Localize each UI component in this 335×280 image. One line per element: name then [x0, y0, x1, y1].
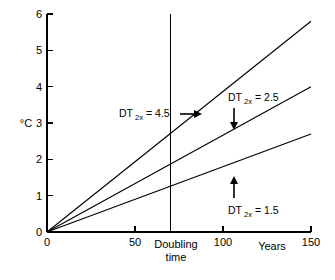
- annotation-dt2x-45: DT 2x = 4.5: [119, 107, 202, 122]
- y-tick-label-4: 4: [36, 81, 42, 93]
- x-axis-ticks: [47, 226, 311, 232]
- y-axis-title: °C: [20, 117, 32, 129]
- annotation-dt2x-45-prefix: DT: [119, 107, 134, 119]
- series-line-dt2x-15: [47, 134, 311, 232]
- chart-figure: 6 5 4 3 2 1 0 °C 0 50 100 150 Years: [0, 0, 335, 280]
- annotation-dt2x-15-suffix: = 1.5: [255, 204, 279, 216]
- y-axis-tick-labels: 6 5 4 3 2 1 0: [36, 8, 42, 238]
- arrow-down-icon: [230, 122, 238, 130]
- x-tick-label-150: 150: [302, 236, 320, 248]
- annotation-dt2x-45-suffix: = 4.5: [146, 107, 170, 119]
- annotation-dt2x-15-prefix: DT: [228, 204, 243, 216]
- x-axis-title: Years: [258, 240, 286, 252]
- annotation-dt2x-25-subscript: 2x: [244, 97, 252, 106]
- x-tick-label-0: 0: [44, 236, 50, 248]
- y-tick-label-5: 5: [36, 44, 42, 56]
- annotation-dt2x-15-subscript: 2x: [244, 210, 252, 219]
- annotation-dt2x-25-prefix: DT: [228, 91, 243, 103]
- x-tick-label-50: 50: [129, 236, 141, 248]
- y-tick-label-0: 0: [36, 226, 42, 238]
- y-axis-ticks: [47, 14, 53, 232]
- arrow-up-icon: [230, 176, 238, 184]
- annotation-dt2x-15: DT 2x = 1.5: [228, 176, 279, 219]
- series-line-dt2x-45: [47, 21, 311, 232]
- y-tick-label-1: 1: [36, 190, 42, 202]
- line-chart-canvas: 6 5 4 3 2 1 0 °C 0 50 100 150 Years: [0, 0, 335, 280]
- doubling-time-label-line1: Doubling: [154, 238, 197, 250]
- annotation-dt2x-25-suffix: = 2.5: [255, 91, 279, 103]
- annotation-dt2x-45-subscript: 2x: [135, 113, 143, 122]
- annotation-dt2x-25: DT 2x = 2.5: [228, 91, 279, 130]
- y-tick-label-2: 2: [36, 153, 42, 165]
- y-tick-label-6: 6: [36, 8, 42, 20]
- doubling-time-label-line2: time: [166, 251, 187, 263]
- y-tick-label-3: 3: [36, 117, 42, 129]
- x-tick-label-100: 100: [214, 236, 232, 248]
